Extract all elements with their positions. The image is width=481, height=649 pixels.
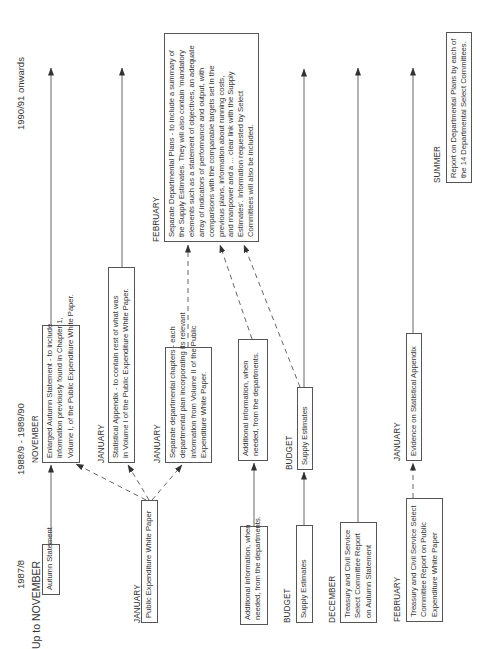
node-statistical-appendix: Statistical Appendix - to contain rest o… <box>108 267 135 463</box>
node-dept-plans: Separate Departmental Plans - to include… <box>164 33 259 242</box>
period-1988-1990: 1988/9 - 1989/90 <box>15 403 26 475</box>
node-report-month: SUMMER <box>433 146 442 183</box>
period-1987-8: 1987/8 <box>15 560 26 589</box>
node-tcs-autumn: Treasury and Civil Service Select Commit… <box>340 522 377 623</box>
node-supply-estimates-2: Supply Estimates <box>297 387 313 470</box>
node-dept-plans-month: FEBRUARY <box>152 197 161 242</box>
node-supply-1-month: BUDGET <box>283 588 292 623</box>
node-enlarged-autumn-statement: Enlarged Autumn Statement - to include i… <box>42 325 80 463</box>
period-1987-8-subtitle: Up to NOVEMBER <box>30 561 42 649</box>
node-supply-estimates-1: Supply Estimates <box>296 525 313 623</box>
period-1990-onwards: 1990/91 onwards <box>15 57 26 130</box>
node-supply-2-month: BUDGET <box>285 435 294 470</box>
node-report-dept-plans: Report on Departmental Plans by each of … <box>446 32 472 183</box>
node-tcs-pewp-month: FEBRUARY <box>393 577 402 622</box>
node-additional-info-2: Additional information, when needed, fro… <box>238 339 268 461</box>
diagram-canvas: 1987/8 Up to NOVEMBER 1988/9 - 1989/90 1… <box>0 0 481 649</box>
node-evidence-month: JANUARY <box>393 422 402 461</box>
node-enlarged-month: NOVEMBER <box>31 415 40 463</box>
node-autumn-statement: Autumn Statement <box>42 544 60 595</box>
node-pewp: Public Expenditure White Paper <box>141 500 158 623</box>
node-dept-chapters: Separate departmental chapters - each de… <box>165 347 212 463</box>
node-tcs-autumn-month: DECEMBER <box>328 576 337 623</box>
node-dept-chapters-month: JANUARY <box>153 424 162 463</box>
node-stat-appendix-month: JANUARY <box>97 424 106 463</box>
node-additional-info-1: Additional information, when needed, fro… <box>240 526 268 625</box>
node-evidence-stat-appendix: Evidence on Statistical Appendix <box>406 333 422 461</box>
node-tcs-pewp: Treasury and Civil Service Select Commit… <box>406 498 443 622</box>
